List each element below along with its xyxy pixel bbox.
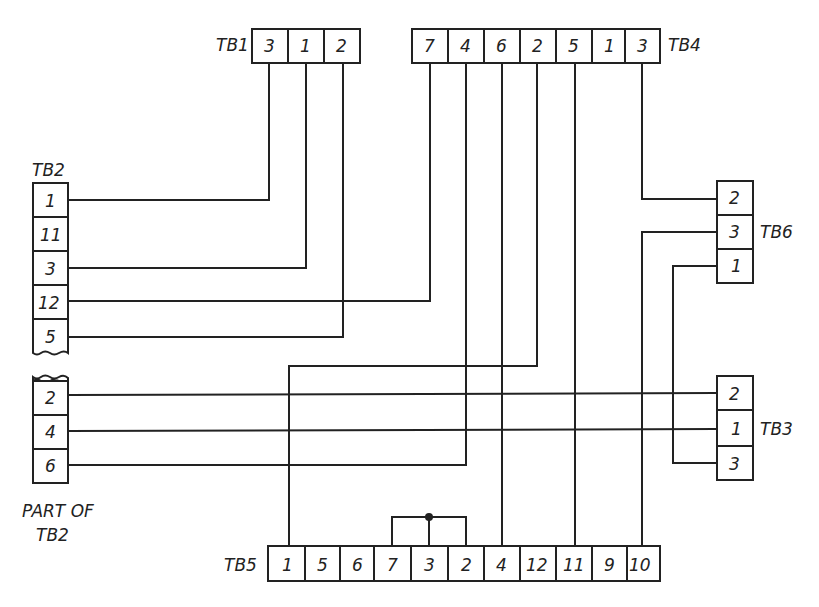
- wire-tb2-4-to-tb3-1: [68, 429, 717, 431]
- tb2-terminal-label: 3: [45, 259, 56, 279]
- wire-tb6-1-to-tb3-3: [673, 266, 717, 463]
- tb4-terminal-label: 7: [424, 36, 435, 56]
- tb4-label: TB4: [668, 35, 701, 55]
- tb2-terminal-label: 4: [45, 422, 56, 442]
- tb4-terminal-label: 1: [604, 36, 615, 56]
- tb5-terminal-label: 4: [496, 555, 507, 575]
- tb5-terminal-label: 5: [317, 555, 328, 575]
- tb1-terminal-label: 2: [336, 36, 347, 56]
- tb1-terminal-label: 1: [300, 36, 311, 56]
- tb4-terminal-label: 5: [568, 36, 579, 56]
- terminal-block-tb1: TB1 3 1 2: [216, 29, 360, 63]
- tb2-terminal-label: 12: [38, 293, 60, 313]
- wire-tb6-3-to-tb5-10: [642, 232, 717, 546]
- tb5-terminal-label: 7: [387, 555, 398, 575]
- terminal-block-tb3: 2 1 3 TB3: [717, 376, 793, 480]
- tb5-label: TB5: [224, 555, 257, 575]
- tb6-terminal-label: 3: [729, 222, 740, 242]
- tb1-label: TB1: [216, 35, 249, 55]
- tb2-terminal-label: 1: [45, 191, 56, 211]
- part-of-label: PART OF: [22, 501, 94, 521]
- wire-tb1-1-to-tb2-3: [68, 63, 306, 268]
- tb2-terminal-label: 6: [45, 456, 56, 476]
- tb5-terminal-label: 3: [424, 555, 435, 575]
- wire-tb4-4-to-tb2-6: [68, 63, 466, 465]
- terminal-block-tb2-part: 2 4 6 PART OF TB2: [22, 376, 94, 546]
- tb5-terminal-label: 11: [563, 555, 585, 575]
- tb4-terminal-label: 3: [637, 36, 648, 56]
- tb5-terminal-label: 9: [604, 555, 615, 575]
- tb2-terminal-label: 2: [45, 388, 56, 408]
- tb1-terminal-label: 3: [264, 36, 275, 56]
- wire-tb4-2-to-tb5-1: [289, 63, 537, 546]
- tb3-terminal-label: 2: [729, 384, 740, 404]
- tb6-terminal-label: 1: [731, 256, 742, 276]
- tb5-terminal-label: 1: [282, 555, 293, 575]
- tb3-label: TB3: [760, 419, 793, 439]
- tb5-terminal-label: 2: [461, 555, 472, 575]
- tb5-terminal-label: 6: [352, 555, 363, 575]
- wire-tb4-3-to-tb6-2: [642, 63, 717, 199]
- wire-tb1-3-to-tb2-1: [68, 63, 269, 200]
- terminal-block-tb2: TB2 1 11 3 12 5: [32, 160, 68, 355]
- tb4-terminal-label: 4: [460, 36, 471, 56]
- tb2-label: TB2: [32, 160, 65, 180]
- wire-tb4-7-to-tb2-12: [68, 63, 430, 301]
- tb6-label: TB6: [760, 222, 793, 242]
- wires: [68, 63, 717, 546]
- junction-dot: [425, 513, 433, 521]
- wire-tb2-2-to-tb3-2: [68, 393, 717, 395]
- tb6-terminal-label: 2: [729, 188, 740, 208]
- tb4-terminal-label: 2: [532, 36, 543, 56]
- tb3-terminal-label: 1: [731, 419, 742, 439]
- part-of-tb2-label: TB2: [36, 525, 69, 545]
- terminal-block-tb4: 7 4 6 2 5 1 3 TB4: [412, 29, 701, 63]
- tb2-terminal-label: 11: [40, 225, 62, 245]
- tb5-terminal-label: 10: [629, 555, 651, 575]
- tb3-terminal-label: 3: [729, 454, 740, 474]
- wiring-diagram: TB1 3 1 2 7 4 6 2 5 1 3 TB4 TB2 1 11 3 1…: [0, 0, 819, 607]
- terminal-block-tb6: 2 3 1 TB6: [717, 181, 793, 283]
- tb5-terminal-label: 12: [526, 555, 548, 575]
- terminal-block-tb5: TB5 1 5 6 7 3 2 4 12 11 9 10: [224, 546, 660, 581]
- tb2-terminal-label: 5: [45, 327, 56, 347]
- tb4-terminal-label: 6: [496, 36, 507, 56]
